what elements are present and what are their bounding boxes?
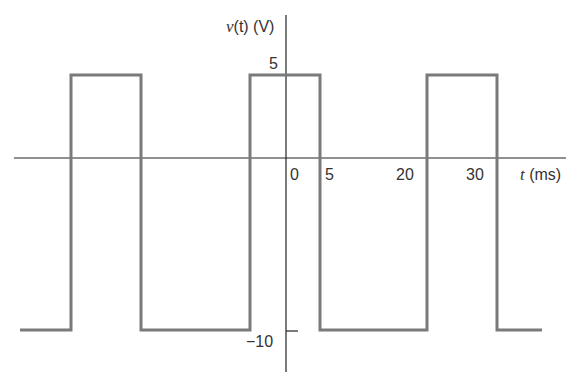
waveform-diagram: v(t) (V) 5 −10 0 5 20 30 t (ms) xyxy=(0,0,588,390)
y-tick-label-neg10: −10 xyxy=(246,333,273,350)
x-axis-label: t (ms) xyxy=(520,165,561,184)
x-tick-label-30: 30 xyxy=(466,166,484,183)
pulse-waveform xyxy=(20,75,542,330)
x-tick-label-0: 0 xyxy=(290,166,299,183)
y-axis-label: v(t) (V) xyxy=(226,17,274,36)
x-tick-label-5: 5 xyxy=(325,166,334,183)
x-tick-label-20: 20 xyxy=(396,166,414,183)
y-tick-label-5: 5 xyxy=(269,55,278,72)
